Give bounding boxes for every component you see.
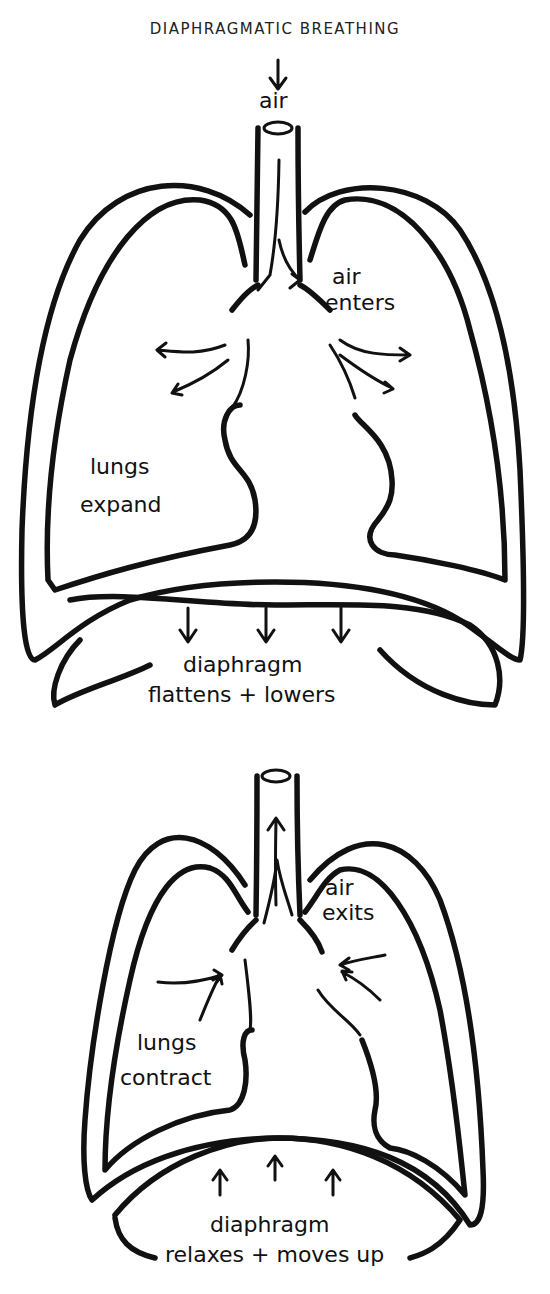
inhale-diagram: air air enters lungs expand diaphragm fl… (22, 60, 524, 707)
diaphragm-exhale-label-2: relaxes + moves up (165, 1242, 384, 1267)
air-flow-inward-arrows (158, 955, 385, 1020)
diaphragm-label-2: flattens + lowers (148, 682, 336, 707)
lungs-expand-label-1: lungs (90, 454, 149, 479)
diaphragm-up-arrows (213, 1156, 340, 1195)
lungs-expand-label-2: expand (80, 492, 162, 517)
air-label: air (259, 88, 289, 113)
trachea (256, 122, 300, 290)
diaphragm-exhale-label-1: diaphragm (210, 1212, 329, 1237)
diaphragm-label-1: diaphragm (183, 652, 302, 677)
air-exits-label-2: exits (322, 900, 374, 925)
lungs-contract-label-2: contract (120, 1065, 212, 1090)
air-flow-arrows (157, 340, 410, 395)
exhale-diagram: air exits lungs contract diaphragm relax… (84, 770, 484, 1267)
air-in-arrow-icon (270, 60, 286, 89)
trachea-exhale (256, 770, 300, 923)
air-enters-label-2: enters (325, 290, 395, 315)
lungs-contract-label-1: lungs (137, 1030, 196, 1055)
breathing-diagram: air air enters lungs expand diaphragm fl… (0, 0, 550, 1294)
air-exits-label-1: air (325, 875, 355, 900)
diaphragm-down-arrows (180, 608, 349, 642)
air-enters-label-1: air (332, 264, 362, 289)
air-out-arrow-icon (264, 818, 292, 923)
